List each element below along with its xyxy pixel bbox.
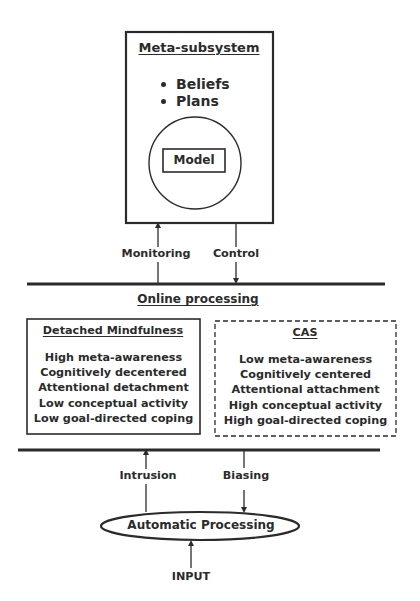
automatic-processing-label: Automatic Processing <box>127 518 274 532</box>
list-item: High meta-awareness <box>27 350 200 365</box>
bullet-icon <box>161 82 166 87</box>
meta-subsystem-bullet-list: Beliefs Plans <box>161 76 230 110</box>
list-item: Cognitively decentered <box>27 365 200 380</box>
meta-subsystem-box <box>126 32 273 223</box>
bullet-item-beliefs: Beliefs <box>161 76 230 93</box>
list-item: High goal-directed coping <box>215 413 396 428</box>
cas-title: CAS <box>293 326 318 339</box>
cas-list: Low meta-awareness Cognitively centered … <box>215 352 396 428</box>
bullet-icon <box>161 99 166 104</box>
control-label: Control <box>213 247 259 260</box>
detached-mindfulness-list: High meta-awareness Cognitively decenter… <box>27 350 200 426</box>
list-item: Low conceptual activity <box>27 396 200 411</box>
input-label: INPUT <box>172 570 210 583</box>
meta-subsystem-title: Meta-subsystem <box>139 40 260 55</box>
bullet-text: Beliefs <box>176 76 230 93</box>
list-item: Cognitively centered <box>215 367 396 382</box>
list-item: Low meta-awareness <box>215 352 396 367</box>
list-item: Attentional detachment <box>27 380 200 395</box>
detached-mindfulness-title: Detached Mindfulness <box>43 324 183 337</box>
list-item: Attentional attachment <box>215 382 396 397</box>
online-processing-title: Online processing <box>137 292 258 306</box>
list-item: High conceptual activity <box>215 398 396 413</box>
list-item: Low goal-directed coping <box>27 411 200 426</box>
monitoring-label: Monitoring <box>122 247 191 260</box>
model-label: Model <box>173 153 214 167</box>
bullet-item-plans: Plans <box>161 93 230 110</box>
biasing-label: Biasing <box>223 469 269 482</box>
intrusion-label: Intrusion <box>119 469 176 482</box>
bullet-text: Plans <box>176 93 219 110</box>
